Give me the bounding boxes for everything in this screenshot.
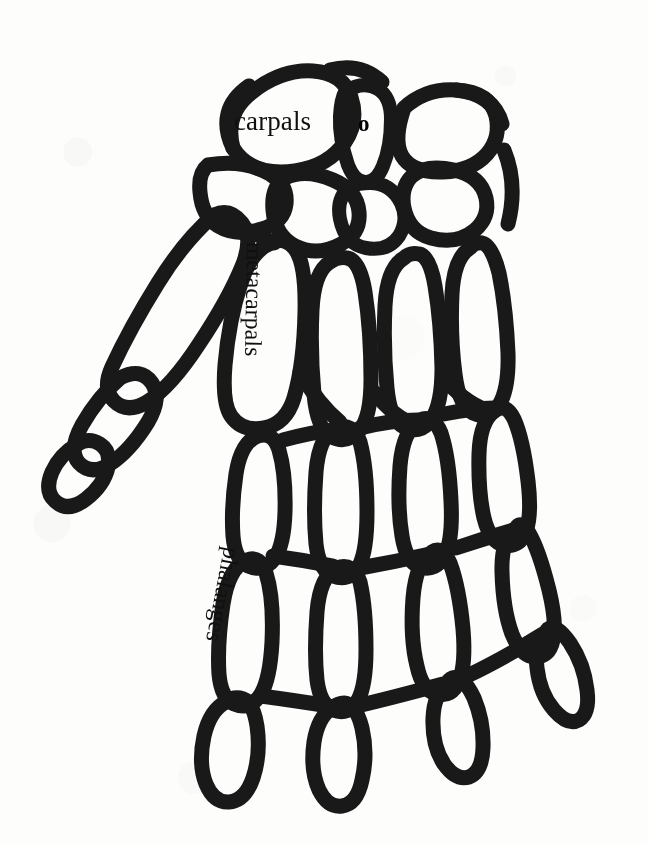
middle-proximal-phalanx [315,427,368,578]
label-metacarpals-rotated-wrapper: metacarpals [239,242,268,357]
carpal-bone-hamate [339,183,404,249]
label-carpals: carpals [234,108,311,135]
hand-skeleton-illustration [0,0,648,845]
middle-middle-phalanx [316,567,367,712]
label-o-marker: o [358,111,370,137]
label-metacarpals: metacarpals [239,242,268,357]
thumb-distal-phalanx [49,441,109,507]
index-distal-phalanx [201,698,258,802]
figure-canvas: carpals o metacarpals phalanges [0,0,648,845]
bone-outlines [49,68,588,806]
